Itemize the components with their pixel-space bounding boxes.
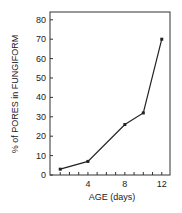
data-point: [86, 160, 89, 163]
series-line: [60, 39, 162, 169]
y-tick-label: 30: [36, 112, 46, 122]
x-tick-label: 12: [157, 179, 167, 189]
data-point: [160, 38, 163, 41]
y-tick-label: 0: [41, 170, 46, 180]
plot-frame: [50, 12, 170, 175]
y-tick-label: 70: [36, 34, 46, 44]
y-tick-label: 50: [36, 73, 46, 83]
data-point: [123, 123, 126, 126]
x-tick-label: 4: [85, 179, 90, 189]
chart: 01020304050607080 4812 AGE (days) % of P…: [0, 0, 182, 213]
y-axis-label: % of PORES in FUNGIFORM: [10, 35, 20, 154]
x-axis-label: AGE (days): [89, 192, 136, 202]
y-tick-label: 60: [36, 54, 46, 64]
y-tick-label: 10: [36, 151, 46, 161]
y-tick-label: 40: [36, 92, 46, 102]
data-point: [59, 168, 62, 171]
data-point: [142, 111, 145, 114]
y-tick-label: 80: [36, 15, 46, 25]
x-tick-label: 8: [122, 179, 127, 189]
y-tick-label: 20: [36, 131, 46, 141]
